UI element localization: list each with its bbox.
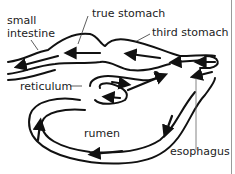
label-rumen: rumen <box>84 128 120 139</box>
label-true-stomach: true stomach <box>92 8 165 19</box>
small-intestine-lower-wall <box>8 70 55 80</box>
ruminant-stomach-diagram: small intestine true stomach third stoma… <box>0 0 235 174</box>
flow-arrow-esophagus-in <box>196 72 212 76</box>
label-reticulum: reticulum <box>20 81 72 92</box>
right-edge-line <box>231 0 232 174</box>
flow-arrow-third-to-true <box>130 54 160 58</box>
flow-arrow-rumen-up <box>38 124 40 140</box>
label-small-intestine-line2: intestine <box>7 28 55 39</box>
reticulum-inner-wall <box>95 83 127 104</box>
label-third-stomach: third stomach <box>152 27 228 38</box>
leader-true-stomach <box>78 16 88 44</box>
leader-small-intestine <box>31 40 38 50</box>
leader-third-stomach <box>135 34 150 42</box>
label-small-intestine-line1: small <box>7 15 36 26</box>
flow-arrow-reticulum-in <box>108 97 120 98</box>
label-esophagus: esophagus <box>170 146 230 157</box>
